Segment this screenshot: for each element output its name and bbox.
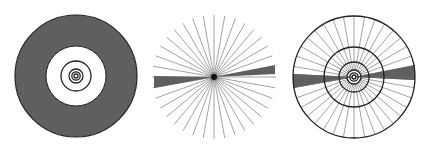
center-dot <box>211 74 217 80</box>
panel-polar-grid <box>293 16 415 138</box>
figure: Dark grey annulus surrounding concentric… <box>0 0 434 148</box>
panel-radial-spokes <box>152 15 276 139</box>
panel-concentric-annulus <box>15 15 137 137</box>
figure-canvas <box>0 0 434 148</box>
annulus-inner <box>46 46 106 106</box>
